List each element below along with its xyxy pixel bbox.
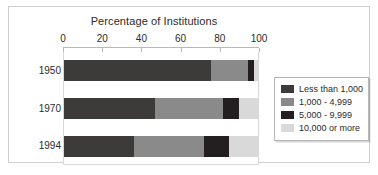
x-axis-tick-labels: 020406080100 bbox=[63, 33, 259, 46]
bar-segment[interactable] bbox=[64, 98, 155, 119]
legend-item[interactable]: 5,000 - 9,999 bbox=[281, 109, 362, 121]
x-axis-tick-mark bbox=[259, 48, 260, 52]
bar-segment[interactable] bbox=[155, 98, 223, 119]
chart-title: Percentage of Institutions bbox=[49, 15, 259, 27]
bar-segment[interactable] bbox=[204, 136, 229, 157]
plot-area bbox=[63, 52, 259, 165]
legend-swatch-icon bbox=[281, 111, 294, 119]
bar-segment[interactable] bbox=[239, 98, 258, 119]
bar-segment[interactable] bbox=[64, 136, 134, 157]
y-axis-category-label: 1970 bbox=[39, 103, 61, 114]
legend-swatch-icon bbox=[281, 124, 294, 132]
chart-legend: Less than 1,0001,000 - 4,9995,000 - 9,99… bbox=[274, 77, 369, 141]
bar-segment[interactable] bbox=[211, 60, 248, 81]
legend-swatch-icon bbox=[281, 98, 294, 106]
bar-segment[interactable] bbox=[229, 136, 258, 157]
stacked-bar[interactable] bbox=[64, 136, 258, 157]
x-axis-tick-label: 20 bbox=[97, 33, 108, 44]
bar-segment[interactable] bbox=[223, 98, 239, 119]
bar-row bbox=[64, 136, 258, 157]
x-axis-tick-label: 40 bbox=[136, 33, 147, 44]
y-axis-category-label: 1950 bbox=[39, 65, 61, 76]
bar-row bbox=[64, 60, 258, 81]
bar-row bbox=[64, 98, 258, 119]
chart-frame: Percentage of Institutions 020406080100 … bbox=[8, 6, 370, 163]
legend-item[interactable]: Less than 1,000 bbox=[281, 83, 362, 95]
legend-item[interactable]: 10,000 or more bbox=[281, 122, 362, 134]
legend-label: 1,000 - 4,999 bbox=[299, 97, 352, 107]
legend-label: 10,000 or more bbox=[299, 123, 360, 133]
stacked-bar[interactable] bbox=[64, 60, 258, 81]
x-axis-tick-label: 0 bbox=[60, 33, 66, 44]
bar-segment[interactable] bbox=[64, 60, 211, 81]
legend-label: Less than 1,000 bbox=[299, 84, 363, 94]
legend-item[interactable]: 1,000 - 4,999 bbox=[281, 96, 362, 108]
legend-swatch-icon bbox=[281, 85, 294, 93]
x-axis-tick-label: 100 bbox=[251, 33, 268, 44]
y-axis-category-label: 1994 bbox=[39, 140, 61, 151]
bar-segment[interactable] bbox=[254, 60, 258, 81]
stacked-bar[interactable] bbox=[64, 98, 258, 119]
bar-segment[interactable] bbox=[134, 136, 204, 157]
y-axis-category-labels: 195019701994 bbox=[23, 52, 61, 165]
legend-label: 5,000 - 9,999 bbox=[299, 110, 352, 120]
x-axis-tick-label: 80 bbox=[214, 33, 225, 44]
x-axis-tick-label: 60 bbox=[175, 33, 186, 44]
